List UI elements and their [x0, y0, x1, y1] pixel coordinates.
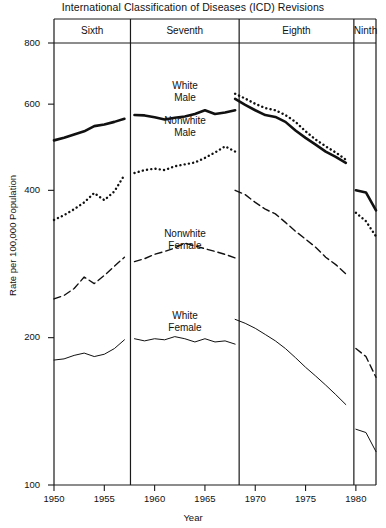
- plot-area: [0, 0, 386, 528]
- series-line-white-male: [135, 110, 236, 119]
- series-line-nonwhite-male: [356, 213, 376, 237]
- series-line-white-male: [356, 190, 376, 210]
- chart-container: International Classification of Diseases…: [0, 0, 386, 528]
- series-line-nonwhite-female: [356, 349, 376, 378]
- series-line-nonwhite-female: [54, 257, 124, 299]
- series-line-nonwhite-female: [235, 190, 346, 274]
- series-line-white-female: [54, 340, 124, 360]
- series-line-nonwhite-male: [54, 175, 124, 220]
- series-line-nonwhite-female: [135, 243, 236, 261]
- series-line-white-female: [356, 429, 376, 451]
- series-line-white-female: [135, 337, 236, 345]
- series-line-white-female: [235, 319, 346, 404]
- series-line-white-male: [235, 99, 346, 163]
- series-line-nonwhite-male: [135, 146, 236, 173]
- series-line-white-male: [54, 119, 124, 141]
